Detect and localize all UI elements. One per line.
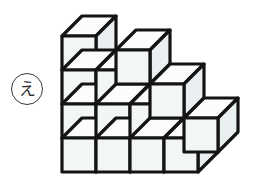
cube-face-front xyxy=(150,84,184,118)
cube-stack-drawing xyxy=(0,0,254,193)
cubes-layer xyxy=(62,16,238,172)
cube-face-front xyxy=(116,50,150,84)
cube-face-front xyxy=(62,138,96,172)
cube-face-front xyxy=(130,138,164,172)
cube-face-front xyxy=(96,138,130,172)
cube-stack-figure: え xyxy=(0,0,254,193)
cube-face-front xyxy=(184,118,218,152)
